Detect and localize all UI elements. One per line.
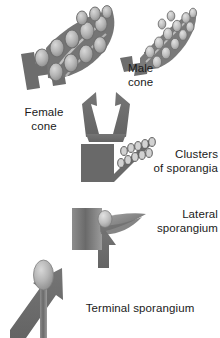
figure-canvas: Male cone Female cone Clusters of sporan… <box>0 0 220 338</box>
terminal-sporangium-group <box>10 260 63 338</box>
label-female-cone: Female cone <box>4 106 84 133</box>
label-lateral-sporangium: Lateral sporangium <box>118 208 218 235</box>
lateral-stem-block <box>72 208 102 250</box>
terminal-stalk <box>40 285 47 338</box>
label-terminal-sporangium: Terminal sporangium <box>62 302 218 316</box>
arrow-clusters-to-cones <box>82 92 130 142</box>
lateral-sporangium-ovule <box>98 211 112 228</box>
cluster-stem-block <box>81 144 114 182</box>
label-male-cone: Male cone <box>128 62 202 89</box>
terminal-sporangium-ovule <box>34 260 54 290</box>
label-clusters-of-sporangia: Clusters of sporangia <box>118 148 218 175</box>
female-cone-group <box>21 6 114 90</box>
